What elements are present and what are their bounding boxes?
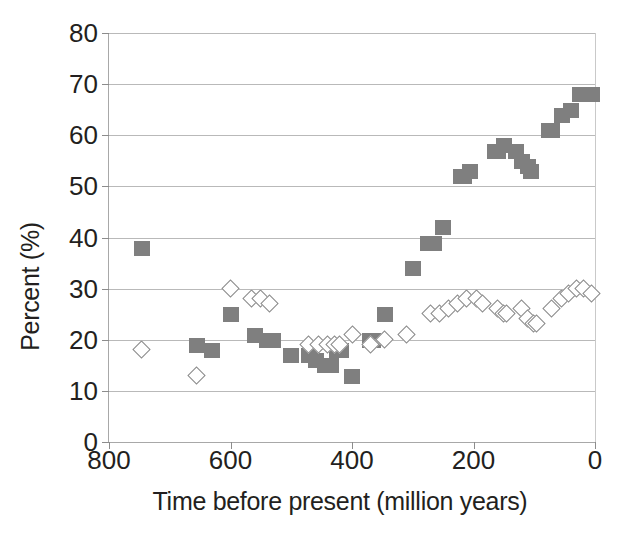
- gridline-y-10: [109, 391, 595, 392]
- data-point-square: [189, 338, 205, 353]
- y-axis-title: Percent (%): [0, 0, 60, 533]
- gridline-y-40: [109, 238, 595, 239]
- data-point-square: [323, 358, 339, 373]
- data-point-square: [523, 164, 539, 179]
- data-point-square: [134, 241, 150, 256]
- data-point-square: [426, 236, 442, 251]
- data-point-square: [344, 369, 360, 384]
- y-tick-mark-0: [102, 442, 109, 443]
- scatter-chart: Percent (%) 01020304050607080 Time befor…: [0, 0, 629, 533]
- gridline-y-60: [109, 135, 595, 136]
- plot-area: [109, 33, 595, 442]
- gridline-y-80: [109, 33, 595, 34]
- gridline-y-70: [109, 84, 595, 85]
- data-point-square: [223, 307, 239, 322]
- x-tick-label-0: 0: [550, 447, 629, 473]
- y-tick-mark-80: [102, 33, 109, 34]
- y-tick-mark-70: [102, 84, 109, 85]
- data-point-square: [544, 123, 560, 138]
- x-axis-title-label: Time before present (million years): [153, 487, 528, 515]
- data-point-square: [405, 261, 421, 276]
- data-point-diamond: [133, 340, 151, 358]
- data-point-diamond: [187, 366, 205, 384]
- data-point-diamond: [221, 279, 239, 297]
- data-point-square: [563, 103, 579, 118]
- data-point-square: [435, 220, 451, 235]
- y-tick-mark-50: [102, 186, 109, 187]
- data-point-square: [204, 343, 220, 358]
- y-tick-mark-20: [102, 340, 109, 341]
- data-point-square: [377, 307, 393, 322]
- x-tick-label-400: 400: [307, 447, 397, 473]
- y-tick-mark-40: [102, 238, 109, 239]
- gridline-y-30: [109, 289, 595, 290]
- y-axis-title-label: Percent (%): [16, 222, 45, 351]
- gridline-y-50: [109, 186, 595, 187]
- y-tick-mark-10: [102, 391, 109, 392]
- x-tick-label-600: 600: [186, 447, 276, 473]
- data-point-square: [462, 164, 478, 179]
- y-tick-mark-30: [102, 289, 109, 290]
- data-point-square: [265, 333, 281, 348]
- data-point-square: [283, 348, 299, 363]
- data-point-square: [584, 87, 600, 102]
- y-tick-mark-60: [102, 135, 109, 136]
- x-tick-label-200: 200: [429, 447, 519, 473]
- x-tick-label-800: 800: [64, 447, 154, 473]
- x-axis-title: Time before present (million years): [60, 487, 620, 516]
